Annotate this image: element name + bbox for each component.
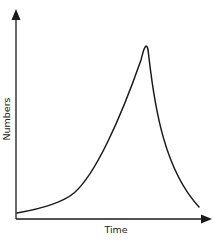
x-axis-label: Time [103,224,127,235]
population-chart: Time Numbers [0,0,213,241]
x-axis-arrow-icon [201,215,212,224]
data-curve [17,46,199,213]
y-axis-label: Numbers [1,97,12,140]
y-axis-arrow-icon [12,9,21,20]
